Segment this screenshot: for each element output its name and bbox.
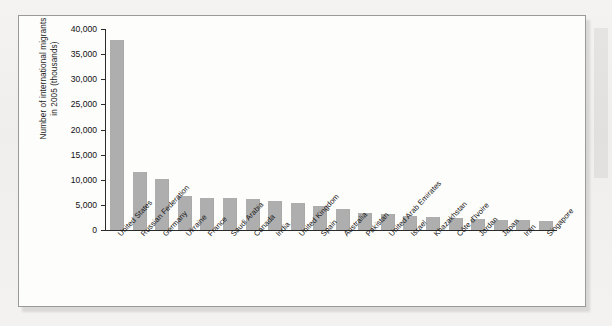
y-axis-title-line-1: Number of international migrants [39, 0, 50, 167]
y-tick-label: 25,000 [71, 99, 97, 109]
y-tick-mark [101, 230, 106, 231]
y-axis-title: Number of international migrants in 2005… [39, 0, 60, 167]
x-axis-category-labels: United StatesRussian FederationGermanyUk… [106, 232, 558, 308]
y-axis-title-line-2: in 2005 (thousands) [49, 0, 60, 167]
y-tick-label: 40,000 [71, 24, 97, 34]
scan-edge-artifact [594, 28, 608, 178]
y-tick-label: 30,000 [71, 74, 97, 84]
bar-chart: Number of international migrants in 2005… [19, 16, 587, 308]
bar [110, 40, 124, 230]
y-tick-label: 35,000 [71, 49, 97, 59]
y-tick-label: 15,000 [71, 150, 97, 160]
y-tick-label: 0 [92, 225, 97, 235]
figure-frame: Number of international migrants in 2005… [18, 15, 586, 307]
y-tick-label: 10,000 [71, 175, 97, 185]
y-tick-label: 5,000 [75, 200, 97, 210]
y-tick-label: 20,000 [71, 125, 97, 135]
